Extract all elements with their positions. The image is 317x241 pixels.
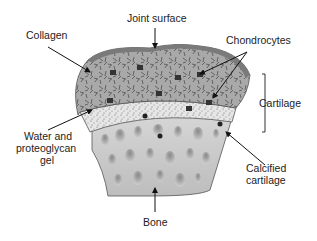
label-water-gel-3: gel <box>40 154 54 166</box>
arrow-collagen <box>48 47 90 72</box>
arrow-calcified <box>226 132 265 165</box>
cartilage-diagram: Joint surface Collagen Chondrocytes Cart… <box>0 0 317 241</box>
label-calcified-2: cartilage <box>246 174 286 186</box>
label-collagen: Collagen <box>26 29 68 41</box>
label-water-gel-1: Water and <box>24 130 72 142</box>
label-chondrocytes: Chondrocytes <box>226 34 291 46</box>
label-cartilage: Cartilage <box>259 97 301 109</box>
label-water-gel-2: proteoglycan <box>16 142 76 154</box>
label-calcified-1: Calcified <box>246 162 286 174</box>
label-joint-surface: Joint surface <box>127 12 187 24</box>
label-bone: Bone <box>143 216 168 228</box>
